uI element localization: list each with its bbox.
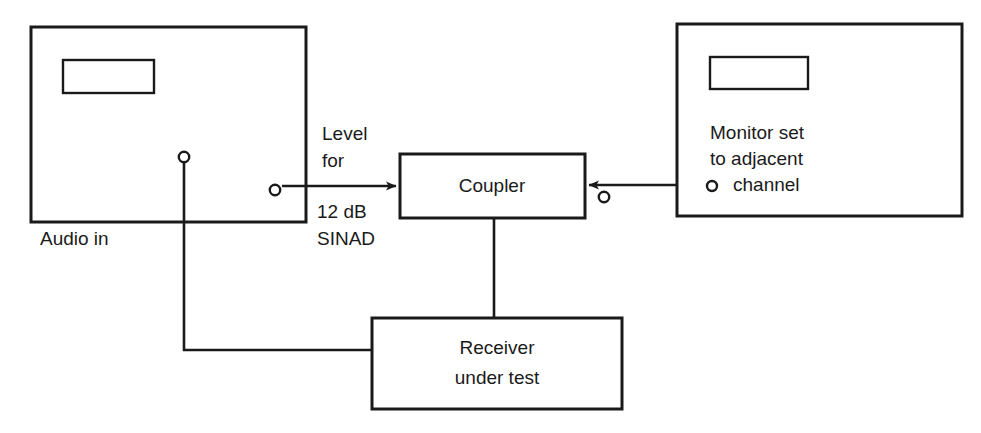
level-annotation-line2: for	[322, 150, 345, 171]
level-annotation-line1: Level	[322, 123, 367, 144]
rf-output-terminal[interactable]	[270, 185, 280, 195]
audio-in-label: Audio in	[40, 228, 109, 249]
monitor-output-terminal[interactable]	[599, 192, 609, 202]
audio-output-terminal[interactable]	[179, 152, 189, 162]
monitor-display-icon	[710, 57, 808, 89]
diagram-canvas: Audio in Coupler Receiver under test Mon…	[0, 0, 981, 433]
monitor-block[interactable]: Monitor set to adjacent channel	[677, 24, 962, 216]
receiver-label-line2: under test	[455, 367, 540, 388]
monitor-body	[677, 24, 962, 216]
block-diagram: Audio in Coupler Receiver under test Mon…	[0, 0, 981, 433]
signal-generator-block[interactable]	[31, 27, 306, 222]
receiver-label-line1: Receiver	[460, 337, 536, 358]
sinad-annotation-line2: SINAD	[317, 228, 375, 249]
monitor-channel-terminal[interactable]	[707, 181, 717, 191]
receiver-body	[372, 318, 622, 409]
signal-generator-body	[31, 27, 306, 222]
monitor-label-line2: to adjacent	[710, 148, 804, 169]
signal-generator-display-icon	[63, 60, 154, 93]
receiver-block[interactable]: Receiver under test	[372, 318, 622, 409]
coupler-block[interactable]: Coupler	[400, 154, 585, 218]
sinad-annotation-line1: 12 dB	[317, 201, 367, 222]
monitor-label-line1: Monitor set	[710, 122, 805, 143]
coupler-label: Coupler	[459, 175, 526, 196]
monitor-label-line3: channel	[733, 174, 800, 195]
